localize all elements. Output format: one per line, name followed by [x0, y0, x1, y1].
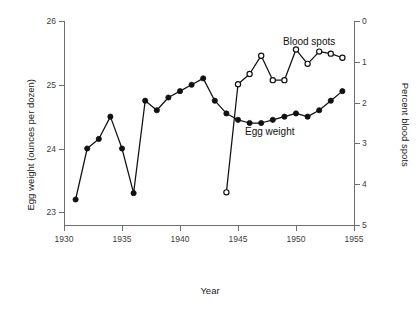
series-annotation-egg-weight: Egg weight [245, 127, 294, 137]
y-axis-right-tick [355, 225, 360, 226]
y-axis-right-title: Percent blood spots [400, 50, 410, 200]
y-axis-left-tick [59, 212, 64, 213]
series-layer [0, 0, 420, 324]
y-axis-right-line [354, 21, 355, 225]
series-egg-weight [73, 76, 345, 202]
y-axis-right-tick-label: 4 [362, 180, 384, 189]
x-axis-tick [180, 226, 181, 231]
y-axis-right-tick [355, 62, 360, 63]
y-axis-right-tick [355, 21, 360, 22]
y-axis-left-tick-label: 25 [34, 81, 56, 90]
y-axis-left-tick-label: 24 [34, 145, 56, 154]
x-axis-tick [296, 226, 297, 231]
y-axis-left-tick [59, 21, 64, 22]
y-axis-right-tick-label: 0 [362, 17, 384, 26]
x-axis-tick-label: 1945 [218, 235, 258, 244]
x-axis-title: Year [150, 286, 270, 296]
x-axis-tick [354, 226, 355, 231]
x-axis-tick [238, 226, 239, 231]
y-axis-left-tick [59, 85, 64, 86]
y-axis-right-tick [355, 184, 360, 185]
y-axis-right-tick-label: 1 [362, 58, 384, 67]
x-axis-tick [64, 226, 65, 231]
series-annotation-blood-spots: Blood spots [283, 37, 335, 47]
y-axis-left-title: Egg weight (ounces per dozen) [26, 50, 36, 240]
x-axis-tick-label: 1950 [276, 235, 316, 244]
y-axis-right-tick-label: 2 [362, 99, 384, 108]
x-axis-tick-label: 1940 [160, 235, 200, 244]
y-axis-right-tick [355, 103, 360, 104]
x-axis-tick [122, 226, 123, 231]
x-axis-tick-label: 1935 [102, 235, 142, 244]
chart-container: 23242526 012345 193019351940194519501955… [0, 0, 420, 324]
y-axis-right-tick [355, 143, 360, 144]
x-axis-line [64, 225, 355, 226]
y-axis-right-tick-label: 5 [362, 221, 384, 230]
y-axis-right-tick-label: 3 [362, 139, 384, 148]
x-axis-tick-label: 1930 [44, 235, 84, 244]
y-axis-left-tick [59, 149, 64, 150]
series-blood-spots [224, 47, 345, 195]
y-axis-left-tick-label: 26 [34, 17, 56, 26]
y-axis-left-tick-label: 23 [34, 208, 56, 217]
x-axis-tick-label: 1955 [334, 235, 374, 244]
y-axis-left-line [64, 21, 65, 225]
